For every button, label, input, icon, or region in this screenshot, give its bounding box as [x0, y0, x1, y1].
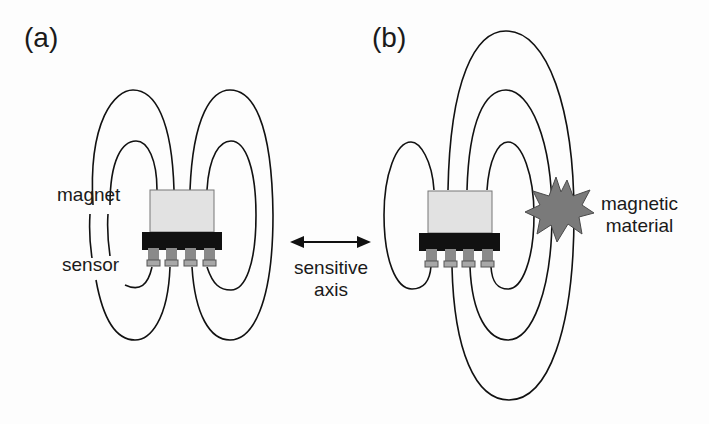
field-line-a-left-outer-bottom [96, 267, 170, 340]
magnet-block-b [428, 191, 492, 233]
sensitive-axis-arrow [290, 236, 371, 248]
magnet-block-a [150, 190, 214, 232]
magnet-label: magnet [57, 184, 120, 206]
panel-a-label: (a) [24, 22, 58, 54]
sensor-pins-a [147, 248, 216, 266]
sensor-label: sensor [62, 254, 119, 276]
field-line-a-left-stub-outer [90, 214, 92, 258]
sensor-body-a [142, 232, 222, 250]
sensor-body-b [419, 233, 500, 251]
magnetic-material-star [525, 177, 594, 242]
magnetic-material-label-line2: material [592, 215, 687, 237]
sensor-pins-b [425, 249, 494, 267]
panel-b-device [419, 191, 500, 267]
panel-a-device [142, 190, 222, 266]
sensitive-axis-label-line1: sensitive [285, 257, 377, 279]
sensitive-axis-label-line2: axis [285, 279, 377, 301]
field-line-a-left-inner-bottom [125, 267, 152, 288]
field-line-a-left-stub-inner [108, 214, 110, 256]
panel-b-label: (b) [372, 22, 406, 54]
magnetic-material-label-line1: magnetic [592, 193, 687, 215]
